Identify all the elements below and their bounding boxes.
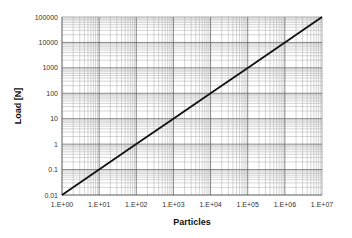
- x-tick-label: 1.E+07: [311, 201, 333, 208]
- y-tick-label: 100000: [35, 14, 58, 21]
- y-tick-label: 0.01: [44, 192, 58, 199]
- y-tick-label: 10000: [39, 39, 59, 46]
- x-tick-label: 1.E+01: [88, 201, 110, 208]
- x-tick-label: 1.E+03: [162, 201, 184, 208]
- chart: 0.010.1110100100010000100000 1.E+001.E+0…: [0, 0, 352, 238]
- x-tick-label: 1.E+06: [274, 201, 296, 208]
- y-tick-label: 100: [46, 90, 58, 97]
- y-axis-title: Load [N]: [13, 88, 23, 125]
- y-tick-label: 0.1: [48, 166, 58, 173]
- x-tick-label: 1.E+04: [199, 201, 221, 208]
- y-tick-label: 1: [54, 141, 58, 148]
- x-axis-ticks: 1.E+001.E+011.E+021.E+031.E+041.E+051.E+…: [51, 201, 333, 208]
- x-tick-label: 1.E+00: [51, 201, 73, 208]
- x-tick-label: 1.E+02: [125, 201, 147, 208]
- y-tick-label: 10: [50, 115, 58, 122]
- x-tick-label: 1.E+05: [237, 201, 259, 208]
- x-axis-title: Particles: [173, 217, 211, 227]
- y-axis-ticks: 0.010.1110100100010000100000: [35, 14, 58, 199]
- y-tick-label: 1000: [42, 64, 58, 71]
